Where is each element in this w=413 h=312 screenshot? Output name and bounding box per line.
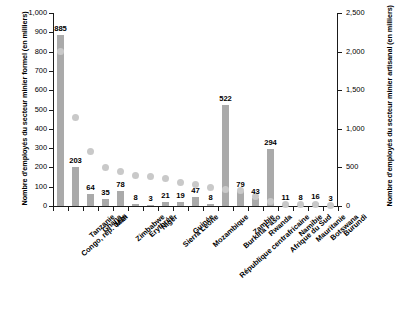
x-axis-tick [233,207,234,211]
y-axis-left-line [53,13,54,207]
scatter-point [162,175,169,182]
x-axis-tick [338,207,339,211]
y-axis-right-tick-label: 2,500 [346,9,380,16]
bar-value-label: 43 [239,188,273,196]
scatter-point [177,179,184,186]
bar-value-label: 522 [209,95,243,103]
y-axis-left-tick-label: 0 [19,202,47,209]
bar-value-label: 294 [254,139,288,147]
y-axis-right-tick-label: 500 [346,163,380,170]
x-axis-tick [278,207,279,211]
scatter-point [87,148,94,155]
scatter-point [132,172,139,179]
y-axis-left-tick-label: 100 [19,183,47,190]
x-axis-tick [53,207,54,211]
x-axis-tick [188,207,189,211]
bar-value-label: 78 [104,181,138,189]
bar [177,202,184,206]
y-axis-right-tick [338,90,342,91]
y-axis-left-tick-label: 800 [19,48,47,55]
y-axis-left-tick-label: 1,000 [19,9,47,16]
y-axis-right-tick [338,13,342,14]
scatter-point [327,202,334,209]
x-axis-tick [143,207,144,211]
x-axis-tick [293,207,294,211]
y-axis-right-tick [338,129,342,130]
x-axis-tick [248,207,249,211]
x-axis-tick [203,207,204,211]
bar [207,204,214,206]
y-axis-left-tick [49,167,53,168]
scatter-point [117,168,124,175]
y-axis-right-line [337,13,338,207]
y-axis-right-tick-label: 1,500 [346,86,380,93]
y-axis-left-tick-label: 500 [19,106,47,113]
y-axis-left-tick-label: 400 [19,125,47,132]
y-axis-left-tick [49,71,53,72]
y-axis-left-tick [49,52,53,53]
y-axis-left-tick-label: 700 [19,67,47,74]
bar [132,204,139,206]
y-axis-left-tick [49,129,53,130]
bar [147,205,154,207]
x-axis-tick [158,207,159,211]
y-axis-right-title: Nombre d'employés du secteur minier arti… [385,11,394,207]
x-axis-tick [308,207,309,211]
chart-container: Nombre d'employés du secteur minier form… [0,0,413,312]
bar-value-label: 885 [44,25,78,33]
x-axis-tick [218,207,219,211]
y-axis-left-tick [49,90,53,91]
y-axis-left-tick [49,110,53,111]
x-axis-line [53,206,338,207]
x-axis-tick [113,207,114,211]
x-axis-tick [323,207,324,211]
bar [162,202,169,206]
y-axis-left-tick-label: 300 [19,144,47,151]
scatter-point [312,201,319,208]
y-axis-right-tick-label: 0 [346,202,380,209]
x-axis-tick [173,207,174,211]
scatter-point [72,114,79,121]
x-axis-tick [68,207,69,211]
bar [102,199,109,206]
bar-value-label: 35 [89,189,123,197]
bar [57,35,64,206]
x-axis-tick [98,207,99,211]
plot-area: 01002003004005006007008009001,000 05001,… [53,13,338,206]
y-axis-left-tick [49,148,53,149]
y-axis-right-tick [338,167,342,168]
x-axis-tick [263,207,264,211]
y-axis-left-tick-label: 200 [19,163,47,170]
y-axis-left-tick-label: 600 [19,86,47,93]
y-axis-right-tick [338,52,342,53]
x-axis-tick [83,207,84,211]
x-axis-tick [128,207,129,211]
bar-value-label: 203 [59,157,93,165]
y-axis-left-tick [49,13,53,14]
bar-value-label: 3 [314,195,348,203]
bar-value-label: 8 [194,194,228,202]
y-axis-left-tick [49,187,53,188]
scatter-point [102,164,109,171]
y-axis-right-tick-label: 1,000 [346,125,380,132]
y-axis-right-tick-label: 2,000 [346,48,380,55]
scatter-point [147,173,154,180]
